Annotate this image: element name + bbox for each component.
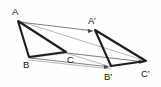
vector-a-to-a-prime-arrowhead [88,29,94,33]
vertex-label-a: A [12,6,19,17]
diagram-canvas: A B C A’ B’ C’ [0,0,161,87]
translation-vectors-group [19,22,144,69]
vertex-label-c-prime: C’ [141,68,150,79]
vertex-label-b-prime: B’ [104,71,112,82]
vector-a-to-a-prime [19,22,93,33]
translation-diagram: A B C A’ B’ C’ [0,0,161,87]
vector-c-to-c-prime-shaft [67,53,142,62]
vertex-label-c: C [67,54,74,65]
guide-lines-group [19,21,146,69]
vertex-label-a-prime: A’ [88,15,96,26]
triangle-a-prime-b-prime-c-prime [95,30,146,66]
vertex-label-b: B [23,59,29,70]
